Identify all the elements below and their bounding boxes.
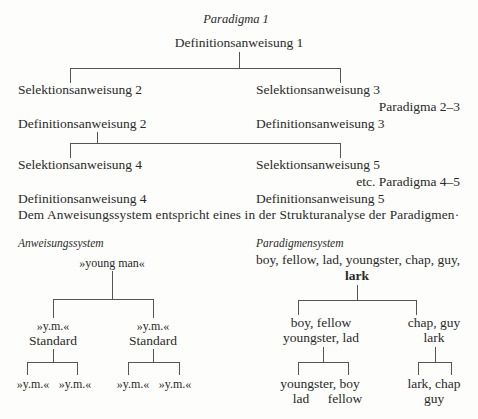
fellow: fellow (328, 391, 363, 407)
paradigm-4-5-label: etc. Paradigma 4–5 (356, 174, 460, 190)
tree-branch (298, 362, 349, 363)
tree-branch-left (27, 362, 28, 375)
selection-instruction-2: Selektionsanweisung 2 (18, 82, 142, 98)
definition-instruction-2: Definitionsanweisung 2 (18, 116, 147, 132)
ym-leaf: »y.m.« (159, 376, 192, 392)
definition-instruction-3: Definitionsanweisung 3 (256, 116, 385, 132)
tree-stem (239, 52, 240, 68)
tree-branch-right (348, 362, 349, 375)
chap-guy: chap, guy (408, 315, 460, 331)
tree-branch-right (451, 362, 452, 375)
tree-branch (418, 362, 452, 363)
tree-branch (27, 362, 78, 363)
standard-right: Standard (129, 333, 177, 349)
tree-branch-right (77, 362, 78, 375)
ym-leaf: »y.m.« (17, 376, 50, 392)
boy-fellow: boy, fellow (291, 315, 352, 331)
tree-branch-left (298, 362, 299, 375)
paradigm-root-line2: lark (345, 268, 369, 284)
tree-branch-left (70, 68, 71, 83)
definition-instruction-4: Definitionsanweisung 4 (18, 191, 147, 207)
ym-right: »y.m.« (137, 318, 170, 334)
youngster-lad: youngster, lad (283, 330, 359, 346)
tree-branch-right (179, 362, 180, 375)
young-man-root: »young man« (79, 255, 145, 271)
paradigm-2-3-label: Paradigma 2–3 (379, 99, 460, 115)
tree-stem (153, 349, 154, 362)
tree-stem (435, 347, 436, 362)
definition-instruction-5: Definitionsanweisung 5 (256, 191, 385, 207)
tree-branch (53, 299, 154, 300)
paradigm-1-title: Paradigma 1 (203, 11, 269, 27)
anweisungssystem-heading: Anweisungssystem (18, 235, 104, 251)
body-sentence: Dem Anweisungssystem entspricht eines in… (18, 207, 459, 223)
tree-stem (97, 132, 98, 143)
tree-branch-right (340, 68, 341, 83)
guy: guy (424, 391, 444, 407)
tree-stem (357, 285, 358, 300)
tree-branch (70, 143, 341, 144)
tree-branch-left (418, 362, 419, 375)
paradigm-root-line1: boy, fellow, lad, youngster, chap, guy, (256, 252, 460, 268)
lark-chap: lark, chap (407, 376, 460, 392)
lark: lark (424, 330, 445, 346)
tree-branch-left (70, 143, 71, 158)
tree-branch-left (128, 362, 129, 375)
tree-stem (53, 349, 54, 362)
tree-branch (70, 68, 341, 69)
selection-instruction-4: Selektionsanweisung 4 (18, 157, 142, 173)
tree-branch-left (53, 299, 54, 318)
tree-branch (298, 300, 417, 301)
lad: lad (293, 391, 310, 407)
selection-instruction-3: Selektionsanweisung 3 (256, 82, 380, 98)
ym-leaf: »y.m.« (59, 376, 92, 392)
standard-left: Standard (29, 333, 77, 349)
tree-branch-right (416, 300, 417, 315)
tree-stem (112, 271, 113, 299)
tree-branch-right (340, 143, 341, 158)
ym-left: »y.m.« (37, 318, 70, 334)
youngster-boy: youngster, boy (280, 376, 360, 392)
tree-branch-right (153, 299, 154, 318)
ym-leaf: »y.m.« (117, 376, 150, 392)
selection-instruction-5: Selektionsanweisung 5 (256, 157, 380, 173)
tree-stem (323, 347, 324, 362)
definition-instruction-1: Definitionsanweisung 1 (175, 35, 304, 51)
paradigmensystem-heading: Paradigmensystem (256, 235, 344, 251)
tree-branch-left (298, 300, 299, 315)
tree-branch (128, 362, 180, 363)
